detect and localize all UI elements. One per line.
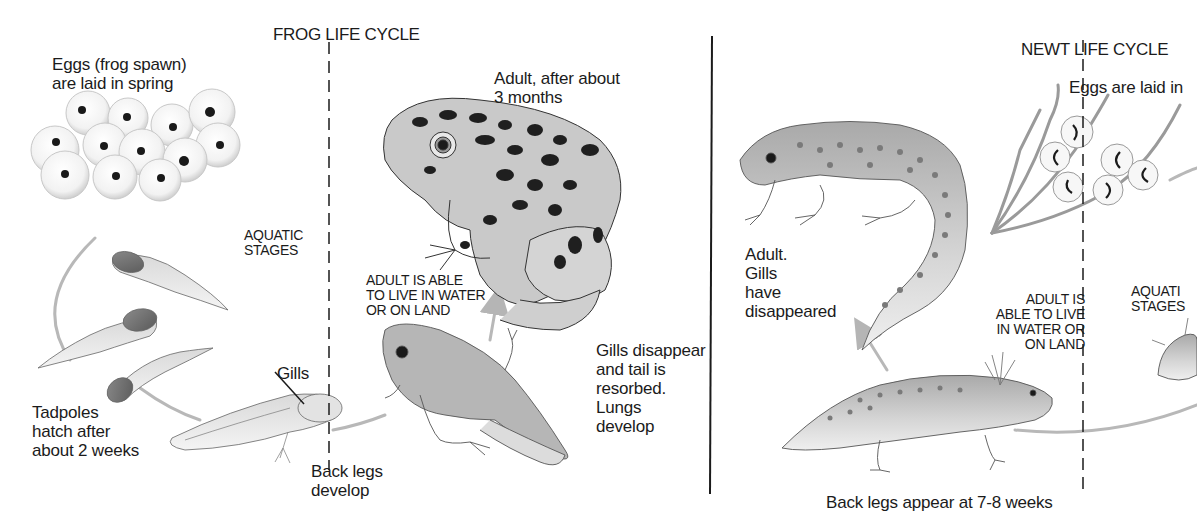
frog-metamorphosis-label: Gills disappear and tail is resorbed. Lu…: [596, 341, 705, 436]
newt-adult-label: Adult. Gills have disappeared: [745, 245, 836, 321]
newt-aquatic-stages-label: AQUATI STAGES: [1131, 284, 1185, 314]
newt-tadpole-partial-icon: [1152, 318, 1197, 380]
frog-adult-label: Adult, after about 3 months: [494, 69, 620, 107]
frog-life-cycle-title: FROG LIFE CYCLE: [273, 25, 420, 44]
newt-larva-icon: [782, 352, 1052, 472]
newt-adult-amphibious-label: ADULT IS ABLE TO LIVE IN WATER OR ON LAN…: [980, 292, 1085, 352]
newt-eggs-on-weed-icon: [992, 85, 1180, 233]
froglet-icon: [383, 324, 568, 465]
frog-adult-amphibious-label: ADULT IS ABLE TO LIVE IN WATER OR ON LAN…: [366, 273, 485, 318]
frog-back-legs-label: Back legs develop: [311, 462, 383, 500]
newt-life-cycle-title: NEWT LIFE CYCLE: [1021, 40, 1168, 59]
frog-eggs-label: Eggs (frog spawn) are laid in spring: [52, 55, 187, 93]
newt-eggs-label: Eggs are laid in: [1069, 78, 1183, 97]
frog-aquatic-stages-label: AQUATIC STAGES: [244, 228, 303, 258]
section-divider: [710, 36, 712, 494]
frog-spawn-eggs-icon: [31, 89, 240, 201]
tadpole-icon: [110, 248, 228, 310]
frog-tadpoles-label: Tadpoles hatch after about 2 weeks: [32, 403, 139, 460]
frog-gills-label: Gills: [277, 364, 309, 383]
newt-back-legs-label: Back legs appear at 7-8 weeks: [826, 493, 1053, 512]
